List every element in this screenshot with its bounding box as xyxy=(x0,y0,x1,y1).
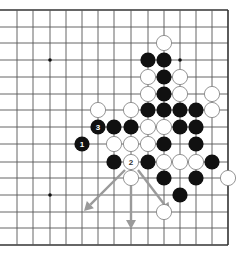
star-point xyxy=(48,193,52,197)
black-stone xyxy=(188,102,203,117)
black-stone xyxy=(188,170,203,185)
white-stone xyxy=(156,35,171,50)
black-stone: 3 xyxy=(90,119,105,134)
white-stone xyxy=(156,154,171,169)
black-stone xyxy=(188,136,203,151)
white-stone xyxy=(140,86,155,101)
white-stone: 2 xyxy=(123,154,138,169)
star-point xyxy=(178,58,182,62)
black-stone xyxy=(204,154,219,169)
black-stone xyxy=(106,119,121,134)
arrow-down-left-icon xyxy=(84,170,125,211)
white-stone xyxy=(123,136,138,151)
white-stone xyxy=(172,69,187,84)
white-stone xyxy=(188,154,203,169)
black-stone xyxy=(156,136,171,151)
black-stone xyxy=(140,102,155,117)
star-point xyxy=(48,58,52,62)
black-stone xyxy=(156,170,171,185)
black-stone xyxy=(123,119,138,134)
move-number-label: 1 xyxy=(80,140,85,149)
white-stone xyxy=(204,86,219,101)
white-stone xyxy=(172,154,187,169)
white-stone xyxy=(220,170,235,185)
black-stone xyxy=(140,154,155,169)
black-stone xyxy=(140,52,155,67)
white-stone xyxy=(204,102,219,117)
white-stone xyxy=(123,102,138,117)
white-stone xyxy=(140,136,155,151)
white-stone xyxy=(123,170,138,185)
white-stone xyxy=(172,86,187,101)
black-stone xyxy=(188,119,203,134)
white-stone xyxy=(140,119,155,134)
go-board: 312 xyxy=(0,0,238,255)
white-stone xyxy=(140,69,155,84)
white-stone xyxy=(106,136,121,151)
black-stone xyxy=(106,154,121,169)
black-stone: 1 xyxy=(74,136,89,151)
arrow-down-icon xyxy=(126,186,136,229)
white-stone xyxy=(90,102,105,117)
black-stone xyxy=(156,52,171,67)
move-number-label: 3 xyxy=(96,123,101,132)
black-stone xyxy=(172,102,187,117)
move-number-label: 2 xyxy=(129,158,134,167)
black-stone xyxy=(172,187,187,202)
black-stone xyxy=(156,86,171,101)
black-stone xyxy=(172,119,187,134)
black-stone xyxy=(156,69,171,84)
white-stone xyxy=(156,119,171,134)
black-stone xyxy=(156,102,171,117)
white-stone xyxy=(156,204,171,219)
